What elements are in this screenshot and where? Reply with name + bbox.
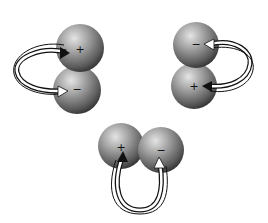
pair-bottom: + −	[98, 123, 184, 214]
negative-sign: −	[191, 38, 200, 51]
dipole-diagram: + − − + + −	[0, 0, 268, 223]
curved-arrow-icon	[111, 151, 167, 214]
positive-sign: +	[116, 141, 125, 154]
negative-sign: −	[156, 144, 165, 157]
pair-top-right: − +	[171, 22, 253, 109]
positive-sign: +	[75, 43, 84, 56]
negative-sign: −	[72, 83, 81, 96]
curved-arrow-icon	[14, 44, 70, 97]
curved-arrow-icon	[202, 39, 253, 92]
pair-top-left: + −	[14, 24, 104, 114]
positive-sign: +	[189, 80, 198, 93]
